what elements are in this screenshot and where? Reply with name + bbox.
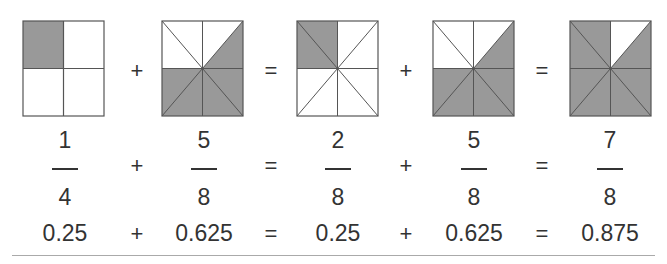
fraction-square-5-8-a [162,21,243,116]
numerator: 2 [332,129,345,152]
plus-operator: + [400,60,413,82]
fraction-square-2-8 [297,21,378,116]
numerator: 5 [468,129,481,152]
numerator: 7 [604,129,617,152]
fraction-bar [461,168,487,170]
numerator: 1 [59,129,72,152]
equals-operator: = [265,60,278,82]
plus-operator: + [400,155,413,177]
fraction-bar [191,168,217,170]
fraction-bar [52,168,78,170]
fraction-square-1-4 [23,21,104,116]
plus-operator: + [131,223,144,245]
decimal-value: 0.625 [445,222,503,245]
denominator: 8 [604,186,617,209]
equals-operator: = [536,155,549,177]
fraction-square-5-8-b [433,21,514,116]
decimal-value: 0.625 [175,222,233,245]
denominator: 8 [468,186,481,209]
fraction-bar [597,168,623,170]
denominator: 4 [59,186,72,209]
decimal-value: 0.25 [316,222,361,245]
plus-operator: + [131,155,144,177]
plus-operator: + [131,60,144,82]
plus-operator: + [400,223,413,245]
denominator: 8 [332,186,345,209]
fraction-bar [325,168,351,170]
numerator: 5 [198,129,211,152]
equals-operator: = [536,223,549,245]
equals-operator: = [536,60,549,82]
decimal-value: 0.875 [581,222,639,245]
bottom-divider [12,255,655,256]
decimal-value: 0.25 [43,222,88,245]
equals-operator: = [265,223,278,245]
equals-operator: = [265,155,278,177]
fraction-square-7-8 [570,21,651,116]
denominator: 8 [198,186,211,209]
